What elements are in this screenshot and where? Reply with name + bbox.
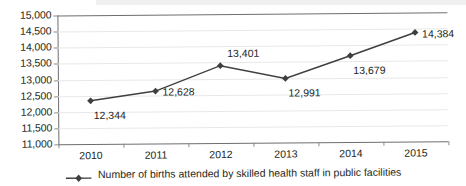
x-axis-tick-label: 2013 — [263, 147, 309, 159]
chart-legend: Number of births attended by skilled hea… — [1, 161, 466, 185]
y-axis-tick-mark — [54, 96, 58, 97]
legend-marker-icon — [66, 173, 92, 183]
x-axis-tick-mark — [188, 143, 189, 147]
y-axis-tick-mark — [54, 144, 58, 145]
y-axis-tick-mark — [54, 64, 58, 65]
data-point-label: 13,679 — [353, 63, 385, 75]
y-axis-tick-mark — [54, 32, 58, 33]
y-axis-tick-mark — [54, 128, 58, 129]
data-point-marker — [282, 75, 289, 82]
y-axis-tick-mark — [54, 48, 58, 49]
x-axis-tick-label: 2014 — [328, 147, 374, 159]
data-point-marker — [412, 29, 419, 36]
data-point-label: 12,991 — [288, 86, 320, 98]
data-point-label: 12,628 — [162, 86, 194, 98]
data-point-label: 12,344 — [94, 108, 126, 120]
x-axis-tick-mark — [318, 142, 319, 146]
x-axis-tick-label: 2012 — [198, 148, 244, 160]
data-point-label: 13,401 — [227, 46, 259, 58]
data-point-label: 14,384 — [422, 27, 454, 39]
x-axis-tick-mark — [58, 144, 59, 148]
y-axis-tick-mark — [54, 112, 58, 113]
legend-marker — [66, 169, 92, 179]
legend-label: Number of births attended by skilled hea… — [98, 166, 401, 180]
chart-skew-wrapper: 15,00014,50014,00013,50013,00012,50012,0… — [0, 0, 466, 186]
x-axis-tick-label: 2015 — [393, 146, 439, 158]
data-point-marker — [87, 97, 94, 104]
x-axis-tick-mark — [448, 141, 449, 145]
data-point-marker — [152, 88, 159, 95]
x-axis-tick-mark — [383, 142, 384, 146]
x-axis-tick-mark — [123, 144, 124, 148]
x-axis-tick-mark — [253, 143, 254, 147]
line-chart: 15,00014,50014,00013,50013,00012,50012,0… — [0, 0, 466, 186]
data-point-marker — [217, 62, 224, 69]
data-point-marker — [347, 52, 354, 59]
y-axis-tick-mark — [53, 15, 57, 16]
y-axis-tick-mark — [54, 80, 58, 81]
x-axis-tick-label: 2010 — [68, 149, 114, 161]
x-axis-tick-label: 2011 — [133, 148, 179, 160]
